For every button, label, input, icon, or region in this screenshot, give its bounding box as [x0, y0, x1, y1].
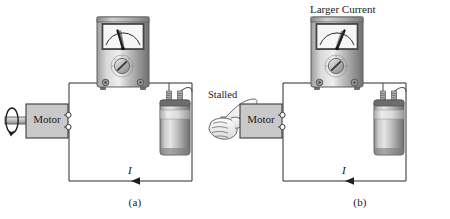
caption-a: (a) — [120, 196, 150, 208]
figure-canvas: Motor I (a) — [0, 0, 450, 219]
battery-a — [160, 91, 190, 155]
ammeter-b[interactable] — [311, 17, 363, 90]
motor-label-b: Motor — [240, 113, 282, 125]
motor-shaft-a — [5, 117, 26, 124]
panel-b-drawing — [225, 0, 450, 219]
current-arrow-icon — [131, 177, 140, 185]
caption-b: (b) — [345, 196, 375, 208]
ammeter-a[interactable] — [97, 17, 149, 90]
motor-label-a: Motor — [26, 113, 68, 125]
larger-current-label: Larger Current — [310, 3, 375, 15]
selector-knob-icon[interactable] — [325, 55, 347, 77]
panel-a: Motor I (a) — [0, 0, 225, 219]
selector-knob-icon[interactable] — [111, 55, 133, 77]
stalled-label: Stalled — [208, 89, 237, 100]
panel-b: Larger Current Stalled Motor I (b) — [225, 0, 450, 219]
current-arrow-icon — [345, 177, 354, 185]
panel-a-drawing — [0, 0, 225, 219]
current-label-b: I — [342, 164, 346, 176]
battery-b — [374, 91, 404, 155]
spring-terminal-icon — [381, 91, 397, 100]
current-label-a: I — [128, 164, 132, 176]
spring-terminal-icon — [167, 91, 183, 100]
